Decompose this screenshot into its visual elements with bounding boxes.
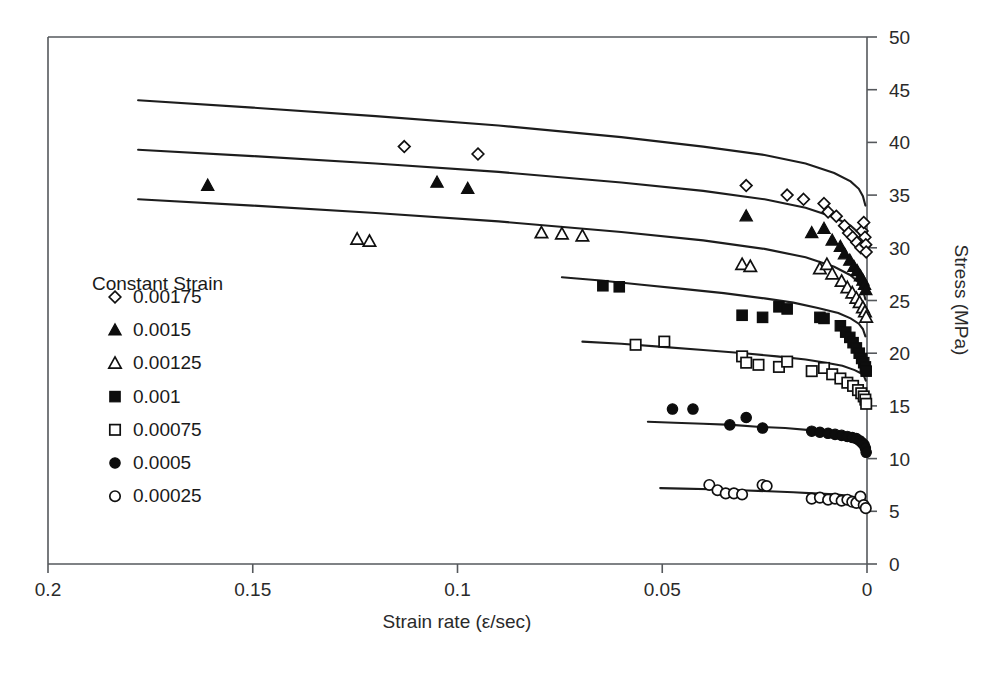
- legend-item-label: 0.0015: [133, 319, 191, 340]
- data-point-marker: [110, 391, 120, 401]
- data-point-marker: [110, 425, 120, 435]
- data-point-marker: [807, 366, 817, 376]
- y-tick-label: 40: [889, 132, 910, 153]
- data-point-marker: [110, 458, 120, 468]
- y-tick-label: 5: [889, 501, 900, 522]
- data-point-marker: [757, 312, 767, 322]
- x-tick-label: 0.2: [35, 579, 61, 600]
- data-point-marker: [861, 447, 871, 457]
- y-tick-label: 20: [889, 343, 910, 364]
- y-tick-label: 45: [889, 80, 910, 101]
- data-point-marker: [819, 313, 829, 323]
- x-tick-label: 0.15: [234, 579, 271, 600]
- y-tick-label: 15: [889, 396, 910, 417]
- y-tick-label: 25: [889, 291, 910, 312]
- data-point-marker: [741, 357, 751, 367]
- y-tick-label: 10: [889, 449, 910, 470]
- data-point-marker: [757, 423, 767, 433]
- data-point-marker: [761, 481, 771, 491]
- data-point-marker: [737, 489, 747, 499]
- stress-vs-strain-rate-chart: 0.20.150.10.050 05101520253035404550 Str…: [0, 0, 990, 688]
- x-tick-label: 0: [862, 579, 873, 600]
- y-tick-label: 30: [889, 238, 910, 259]
- data-point-marker: [741, 412, 751, 422]
- y-axis-title: Stress (MPa): [951, 245, 972, 356]
- data-point-marker: [688, 404, 698, 414]
- data-point-marker: [725, 420, 735, 430]
- data-point-marker: [737, 310, 747, 320]
- data-point-marker: [630, 340, 640, 350]
- x-tick-label: 0.05: [644, 579, 681, 600]
- y-tick-label: 0: [889, 554, 900, 575]
- legend-item-label: 0.00125: [133, 352, 202, 373]
- legend-item-label: 0.001: [133, 386, 181, 407]
- x-axis-title: Strain rate (ε/sec): [383, 611, 532, 632]
- legend-item-label: 0.00175: [133, 286, 202, 307]
- legend-item-label: 0.00075: [133, 419, 202, 440]
- data-point-marker: [667, 404, 677, 414]
- data-point-marker: [659, 336, 669, 346]
- data-point-marker: [861, 399, 871, 409]
- legend-item-label: 0.00025: [133, 485, 202, 506]
- data-point-marker: [782, 356, 792, 366]
- legend-marker-open-circle-icon: [110, 491, 120, 501]
- data-point-marker: [753, 360, 763, 370]
- data-point-marker: [110, 491, 120, 501]
- legend-marker-open-square-icon: [110, 425, 120, 435]
- x-tick-label: 0.1: [444, 579, 470, 600]
- data-point-marker: [598, 281, 608, 291]
- data-point-marker: [861, 366, 871, 376]
- legend-marker-filled-circle-icon: [110, 458, 120, 468]
- chart-background: [0, 0, 990, 688]
- y-tick-label: 35: [889, 185, 910, 206]
- figure-container: 0.20.150.10.050 05101520253035404550 Str…: [0, 0, 990, 688]
- data-point-marker: [782, 304, 792, 314]
- data-point-marker: [861, 503, 871, 513]
- legend-marker-filled-square-icon: [110, 391, 120, 401]
- data-point-marker: [614, 282, 624, 292]
- legend-item-label: 0.0005: [133, 452, 191, 473]
- y-tick-label: 50: [889, 27, 910, 48]
